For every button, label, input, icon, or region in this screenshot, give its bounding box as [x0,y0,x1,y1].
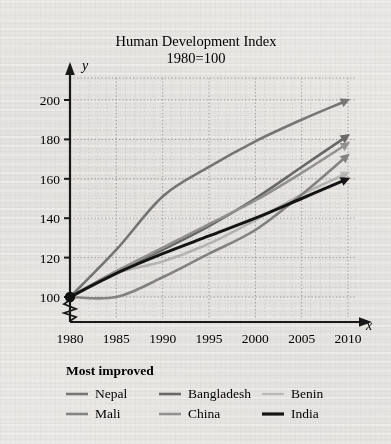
origin-marker-dot [65,292,75,302]
y-tick-label: 140 [40,211,61,226]
x-tick-label: 1980 [57,331,84,346]
x-tick-label: 2010 [335,331,362,346]
x-tick-label: 2000 [242,331,269,346]
series-lines [70,99,350,299]
legend: NepalBangladeshBeninMaliChinaIndia [66,386,323,421]
x-tick-label: 1990 [149,331,176,346]
human-development-index-chart: Human Development Index 1980=100 1001201… [0,0,391,444]
series-nepal [70,99,350,297]
y-tick-label: 180 [40,132,61,147]
legend-item-bangladesh[interactable]: Bangladesh [159,386,251,401]
legend-item-china[interactable]: China [159,406,220,421]
series-line [70,181,342,297]
legend-item-benin[interactable]: Benin [262,386,323,401]
y-tick-label: 120 [40,251,61,266]
chart-subtitle: 1980=100 [167,50,226,66]
legend-label: Bangladesh [188,386,251,401]
legend-title: Most improved [66,363,154,378]
x-axis-label: x [365,318,373,333]
legend-item-nepal[interactable]: Nepal [66,386,127,401]
legend-item-mali[interactable]: Mali [66,406,121,421]
legend-label: Nepal [95,386,127,401]
x-tick-label: 1985 [103,331,130,346]
x-axis-ticks: 1980198519901995200020052010 [57,322,362,346]
y-axis-label: y [80,58,89,73]
legend-label: India [291,406,319,421]
chart-figure: Human Development Index 1980=100 1001201… [0,0,391,444]
x-tick-label: 1995 [196,331,223,346]
y-tick-label: 200 [40,93,61,108]
x-tick-label: 2005 [288,331,315,346]
legend-label: China [188,406,220,421]
y-tick-label: 100 [40,290,61,305]
legend-item-india[interactable]: India [262,406,319,421]
y-axis-arrowhead [65,62,75,75]
legend-label: Benin [291,386,323,401]
y-axis-ticks: 100120140160180200 [40,93,70,305]
chart-title: Human Development Index [115,33,277,49]
legend-label: Mali [95,406,121,421]
y-tick-label: 160 [40,172,61,187]
series-india [70,177,350,297]
